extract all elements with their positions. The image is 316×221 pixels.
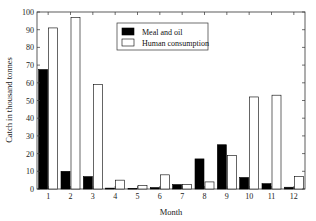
x-tick-label: 5 <box>136 192 140 201</box>
bar-meal-and-oil <box>240 177 249 189</box>
bar-human-consumption <box>294 177 303 189</box>
x-tick-label: 10 <box>245 192 253 201</box>
legend-label-meal-and-oil: Meal and oil <box>142 28 183 37</box>
bar-human-consumption <box>205 182 214 189</box>
y-tick-label: 50 <box>26 97 34 106</box>
x-tick-label: 2 <box>69 192 73 201</box>
x-tick-label: 7 <box>180 192 184 201</box>
y-tick-label: 80 <box>26 43 34 52</box>
bar-meal-and-oil <box>106 188 115 189</box>
x-tick-label: 12 <box>290 192 298 201</box>
legend-label-human-consumption: Human consumption <box>142 39 209 48</box>
x-tick-label: 9 <box>225 192 229 201</box>
x-tick-label: 4 <box>113 192 117 201</box>
bar-meal-and-oil <box>150 188 159 189</box>
bar-human-consumption <box>160 175 169 189</box>
x-tick-label: 8 <box>203 192 207 201</box>
bar-human-consumption <box>49 28 58 189</box>
bar-human-consumption <box>183 185 192 189</box>
x-tick-label: 11 <box>268 192 276 201</box>
y-tick-label: 30 <box>26 132 34 141</box>
bar-human-consumption <box>272 95 281 189</box>
y-tick-label: 0 <box>30 185 34 194</box>
bar-meal-and-oil <box>262 184 271 189</box>
y-tick-label: 100 <box>22 8 34 17</box>
legend-swatch-meal-and-oil <box>122 28 134 35</box>
y-tick-label: 70 <box>26 61 34 70</box>
bar-human-consumption <box>116 180 125 189</box>
bar-meal-and-oil <box>83 177 92 189</box>
x-axis-label: Month <box>160 207 183 217</box>
x-tick-label: 6 <box>158 192 162 201</box>
legend-swatch-human-consumption <box>122 39 134 46</box>
bar-meal-and-oil <box>173 185 182 189</box>
bar-meal-and-oil <box>195 159 204 189</box>
bar-meal-and-oil <box>39 70 48 189</box>
bar-meal-and-oil <box>284 187 293 189</box>
y-tick-label: 20 <box>26 150 34 159</box>
y-tick-label: 90 <box>26 26 34 35</box>
x-tick-label: 1 <box>46 192 50 201</box>
bar-meal-and-oil <box>128 188 137 189</box>
bar-meal-and-oil <box>61 171 70 189</box>
y-tick-label: 40 <box>26 114 34 123</box>
bar-human-consumption <box>227 155 236 189</box>
y-tick-label: 10 <box>26 167 34 176</box>
bar-meal-and-oil <box>217 145 226 189</box>
bar-human-consumption <box>250 97 259 189</box>
legend: Meal and oil Human consumption <box>117 23 209 50</box>
bar-human-consumption <box>138 185 147 189</box>
bar-chart: 0102030405060708090100 123456789101112 C… <box>0 0 316 221</box>
bar-human-consumption <box>71 17 80 189</box>
y-axis-label: Catch in thousand tonnes <box>4 57 14 143</box>
y-tick-label: 60 <box>26 79 34 88</box>
x-tick-label: 3 <box>91 192 95 201</box>
bar-human-consumption <box>93 85 102 189</box>
